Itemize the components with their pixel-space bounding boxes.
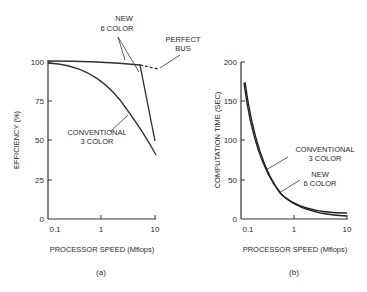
y-axis-label-b: COMPUTATION TIME (SEC)	[213, 91, 222, 188]
xtick-1: 1	[99, 225, 104, 234]
panel-a: 100 75 50 25 0 0.1 1 10 PROCESSOR SPEED …	[12, 14, 201, 277]
x-axis-label-a: PROCESSOR SPEED (Mflops)	[50, 245, 155, 254]
panel-b: 200 150 100 50 0 0.1 1 10 PROCESSOR SPEE…	[213, 58, 355, 277]
annotation-new6-b-line2: 6 COLOR	[304, 179, 338, 188]
annotation-new6-line2: 6 COLOR	[101, 24, 135, 33]
y-axis-label-a: EFFICIENCY (%)	[12, 110, 21, 169]
annotation-new6-b-line1: NEW	[311, 170, 329, 179]
annotation-new6-line1: NEW	[115, 14, 133, 23]
xtick-10: 10	[343, 225, 352, 234]
ytick-50: 50	[35, 136, 44, 145]
annotation-conv-line2: 3 COLOR	[81, 137, 115, 146]
annotation-conv-b-line1: CONVENTIONAL	[295, 145, 354, 154]
x-axis-label-b: PROCESSOR SPEED (Mflops)	[243, 245, 348, 254]
xtick-10: 10	[151, 225, 160, 234]
xtick-0.1: 0.1	[49, 225, 61, 234]
ytick-0: 0	[40, 215, 45, 224]
ytick-75: 75	[35, 97, 44, 106]
caption-b: (b)	[289, 268, 299, 277]
annotation-conv-line1: CONVENTIONAL	[67, 128, 126, 137]
ytick-0: 0	[233, 215, 238, 224]
perfect-bus-curve	[140, 65, 158, 69]
ytick-200: 200	[224, 58, 238, 67]
annotation-perfect-line2: BUS	[175, 44, 190, 53]
caption-a: (a)	[96, 268, 106, 277]
ytick-100: 100	[31, 58, 45, 67]
annotation-conv-b-line2: 3 COLOR	[309, 154, 343, 163]
ytick-25: 25	[35, 176, 44, 185]
figure: 100 75 50 25 0 0.1 1 10 PROCESSOR SPEED …	[0, 0, 367, 292]
annotation-perfect-line1: PERFECT	[165, 35, 200, 44]
xtick-0.1: 0.1	[242, 225, 254, 234]
ytick-100: 100	[224, 136, 238, 145]
ytick-50: 50	[228, 176, 237, 185]
xtick-1: 1	[292, 225, 297, 234]
ytick-150: 150	[224, 97, 238, 106]
